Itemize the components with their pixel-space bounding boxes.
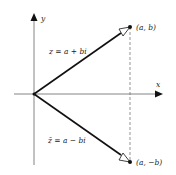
- vector-z-conjugate: [34, 94, 121, 155]
- x-axis-label: x: [156, 80, 161, 89]
- y-axis-label: y: [40, 14, 46, 23]
- vector-z: [34, 33, 121, 94]
- point-a-minus-b: [128, 160, 132, 164]
- point-a-minus-b-label: (a, −b): [136, 158, 162, 167]
- point-a-b: [128, 25, 132, 29]
- vector-z-label: z = a + bi: [48, 47, 87, 56]
- y-axis-arrow-icon: [31, 13, 38, 21]
- vector-z-conjugate-label: z̄ = a − bi: [47, 136, 86, 145]
- x-axis-arrow-icon: [155, 91, 163, 98]
- complex-conjugate-diagram: y x z = a + bi z̄ = a − bi (a, b) (a, −b…: [0, 0, 176, 175]
- vector-z-arrow-icon: [119, 27, 130, 36]
- point-a-b-label: (a, b): [136, 23, 156, 32]
- origin-point: [33, 93, 36, 96]
